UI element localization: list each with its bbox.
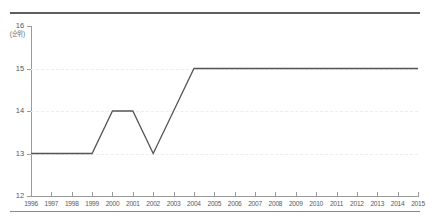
- x-axis-labels: 1996199719981999200020012002200320042005…: [31, 199, 419, 211]
- x-tick-mark: [255, 192, 256, 196]
- y-tick-label: 13: [0, 150, 24, 158]
- top-divider-rule: [10, 12, 420, 14]
- x-tick-mark: [153, 192, 154, 196]
- x-axis-line: [31, 196, 419, 197]
- bottom-divider-rule: [10, 211, 420, 212]
- x-tick-mark: [92, 192, 93, 196]
- line-series-rank: [31, 26, 418, 196]
- x-tick-mark: [72, 192, 73, 196]
- x-tick-mark: [418, 192, 419, 196]
- x-tick-mark: [316, 192, 317, 196]
- x-tick-mark: [377, 192, 378, 196]
- x-tick-mark: [174, 192, 175, 196]
- y-axis-unit-label: (순위): [0, 30, 25, 37]
- x-axis-ticks: [31, 192, 419, 196]
- x-tick-mark: [357, 192, 358, 196]
- x-tick-mark: [112, 192, 113, 196]
- x-tick-mark: [194, 192, 195, 196]
- y-tick-label: 15: [0, 65, 24, 73]
- x-tick-mark: [398, 192, 399, 196]
- series-polyline: [31, 69, 418, 154]
- chart-figure: 1615141312 (순위) 199619971998199920002001…: [0, 0, 432, 220]
- x-tick-mark: [296, 192, 297, 196]
- y-tick-label: 14: [0, 107, 24, 115]
- y-tick-mark: [27, 196, 31, 197]
- x-tick-mark: [235, 192, 236, 196]
- x-tick-mark: [275, 192, 276, 196]
- x-tick-mark: [31, 192, 32, 196]
- x-tick-mark: [133, 192, 134, 196]
- x-tick-mark: [337, 192, 338, 196]
- x-tick-mark: [51, 192, 52, 196]
- x-tick-mark: [214, 192, 215, 196]
- plot-area: [31, 26, 418, 196]
- y-tick-label: 16: [0, 22, 24, 30]
- x-tick-label: 2015: [405, 199, 431, 209]
